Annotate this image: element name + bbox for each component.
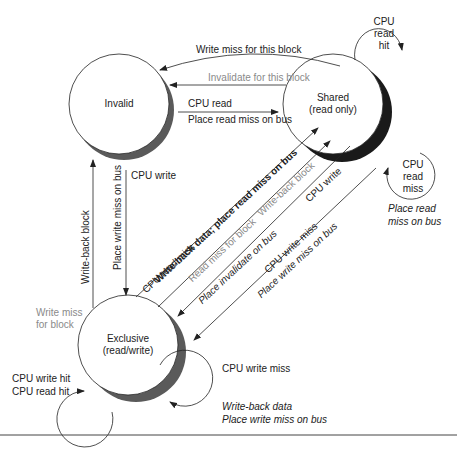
- label-place-write-miss-on-bus: Place write miss on bus: [112, 165, 124, 270]
- label-write-back-data-loop: Write-back data: [222, 401, 292, 413]
- state-exclusive-sublabel: (read/write): [98, 345, 158, 357]
- label-cpu-read-hit: CPU read hit: [12, 386, 69, 398]
- label-cpu-read: CPU read: [188, 98, 232, 110]
- label-invalidate-for-this-block: Invalidate for this block: [208, 72, 310, 84]
- label-cpu-write-miss-loop: CPU write miss: [222, 363, 290, 375]
- coherence-state-diagram: Invalid Shared (read only) Exclusive (re…: [0, 0, 457, 454]
- label-shared-read-miss-1: CPU: [395, 159, 431, 171]
- label-cpu-write-hit: CPU write hit: [12, 373, 70, 385]
- state-exclusive-label: Exclusive: [98, 333, 158, 345]
- label-shared-read-miss-2: read: [395, 171, 431, 183]
- state-shared-label: Shared: [303, 92, 363, 104]
- label-shared-read-miss-3: miss: [395, 183, 431, 195]
- label-place-read-miss-1: Place read: [388, 203, 436, 215]
- state-shared-sublabel: (read only): [303, 104, 363, 116]
- label-write-back-block-vertical: Write-back block: [80, 210, 92, 284]
- label-place-write-miss-loop: Place write miss on bus: [222, 414, 327, 426]
- label-shared-read-hit-2: read: [366, 28, 402, 40]
- label-shared-read-hit-1: CPU: [366, 16, 402, 28]
- label-for-block: for block: [36, 319, 74, 331]
- label-write-miss-for-this-block: Write miss for this block: [196, 44, 301, 56]
- state-invalid-label: Invalid: [99, 98, 139, 110]
- loop-exclusive-hit: [57, 391, 113, 447]
- label-place-read-miss-on-bus: Place read miss on bus: [188, 114, 292, 126]
- label-place-read-miss-2: miss on bus: [388, 216, 441, 228]
- label-cpu-write-invalid: CPU write: [131, 170, 176, 182]
- label-shared-read-hit-3: hit: [366, 40, 402, 52]
- label-write-miss: Write miss: [36, 307, 82, 319]
